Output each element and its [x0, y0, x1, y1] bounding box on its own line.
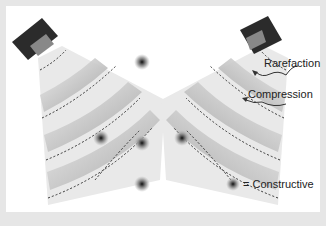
interference-diagram	[0, 0, 326, 226]
constructive-node	[93, 130, 109, 146]
legend-constructive-icon	[226, 177, 240, 191]
right-speaker-icon	[240, 16, 282, 54]
compression-label: Compression	[248, 88, 313, 100]
constructive-node	[174, 130, 190, 146]
constructive-node	[134, 135, 150, 151]
rarefaction-label: Rarefaction	[264, 57, 320, 69]
constructive-node	[134, 54, 150, 70]
legend-label: = Constructive	[243, 178, 314, 190]
constructive-node	[134, 176, 150, 192]
